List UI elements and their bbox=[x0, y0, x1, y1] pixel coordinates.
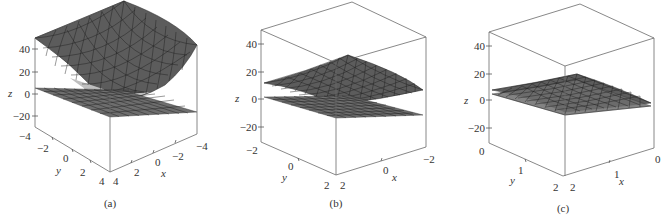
panel-b-z-tick-20: 20 bbox=[246, 66, 258, 78]
panel-a-x-tick: 2 bbox=[134, 166, 140, 178]
panel-c-box-top-front bbox=[489, 32, 654, 66]
panel-c-y-tick: 1 bbox=[518, 164, 524, 176]
panel-a-z-tick-neg20: −20 bbox=[13, 110, 31, 122]
panel-c-y-tick: 0 bbox=[479, 145, 485, 157]
panel-b-x-label: x bbox=[391, 171, 397, 183]
panel-b-x-tick: 2 bbox=[340, 179, 346, 191]
panel-c-x-tick: 0 bbox=[655, 153, 661, 165]
panel-c-caption: (c) bbox=[557, 202, 570, 215]
panel-b-z-tick-40: 40 bbox=[246, 38, 258, 50]
panel-b-y-label: y bbox=[281, 171, 287, 183]
panel-a-x-tick: −2 bbox=[172, 150, 184, 162]
panel-b-y-tick: 2 bbox=[324, 179, 330, 191]
panel-b-box-top-back bbox=[261, 2, 426, 37]
panel-a-y-tick: 0 bbox=[63, 152, 69, 164]
panel-a-caption: (a) bbox=[104, 197, 117, 210]
panel-c-y-axis bbox=[489, 143, 563, 176]
panel-a: 40 20 0 −20 z −4 −2 0 2 4 y 4 2 0 −2 −4 … bbox=[7, 1, 208, 210]
panel-b-z-tick-0: 0 bbox=[252, 93, 258, 105]
panel-b-z-label: z bbox=[234, 92, 240, 104]
panel-c-z-tick-0: 0 bbox=[480, 94, 486, 106]
panel-b-caption: (b) bbox=[330, 197, 343, 210]
panel-b-y-tick: 0 bbox=[288, 160, 294, 172]
panel-a-y-tick: 4 bbox=[99, 175, 105, 187]
panel-b: 40 20 0 −20 z −2 0 2 y 2 0 −2 x (b) bbox=[234, 2, 435, 210]
panel-a-y-tick: −4 bbox=[19, 130, 31, 142]
panel-b-z-tick-neg20: −20 bbox=[240, 121, 258, 133]
panel-a-z-tick-0: 0 bbox=[25, 88, 31, 100]
panel-c-z-label: z bbox=[463, 94, 469, 106]
panel-a-z-tick-20: 20 bbox=[19, 66, 31, 78]
panel-a-y-tick: 2 bbox=[80, 166, 86, 178]
panel-b-x-tick: −2 bbox=[423, 153, 435, 165]
panel-b-y-tick: −2 bbox=[246, 144, 258, 156]
panel-a-paraboloid-surface bbox=[35, 1, 197, 102]
panel-c-z-tick-40: 40 bbox=[474, 40, 486, 52]
panel-a-x-axis bbox=[110, 134, 197, 172]
panel-a-tangent-plane bbox=[35, 88, 197, 117]
figure-canvas: 40 20 0 −20 z −4 −2 0 2 4 y 4 2 0 −2 −4 … bbox=[0, 0, 666, 221]
panel-c-z-tick-20: 20 bbox=[474, 68, 486, 80]
panel-a-x-tick: 4 bbox=[113, 175, 119, 187]
panel-c-z-tick-neg20: −20 bbox=[468, 122, 486, 134]
panel-b-x-tick: 0 bbox=[383, 164, 389, 176]
panel-c-y-tick: 2 bbox=[553, 181, 559, 193]
panel-c-box-top-back bbox=[489, 4, 654, 38]
panel-c-y-label: y bbox=[509, 174, 515, 186]
panel-a-z-label: z bbox=[7, 87, 13, 99]
panel-c-x-axis bbox=[563, 148, 654, 176]
panel-c-x-label: x bbox=[618, 175, 624, 187]
panel-a-z-tick-40: 40 bbox=[19, 43, 31, 55]
panel-a-x-tick: −4 bbox=[196, 140, 208, 152]
panel-c-x-tick: 2 bbox=[570, 181, 576, 193]
panel-a-y-label: y bbox=[55, 164, 61, 176]
panel-c: 40 20 0 −20 z 0 1 2 y 2 1 0 x (c) bbox=[463, 4, 661, 215]
panel-a-y-tick: −2 bbox=[37, 142, 49, 154]
panel-a-x-label: x bbox=[160, 167, 166, 179]
